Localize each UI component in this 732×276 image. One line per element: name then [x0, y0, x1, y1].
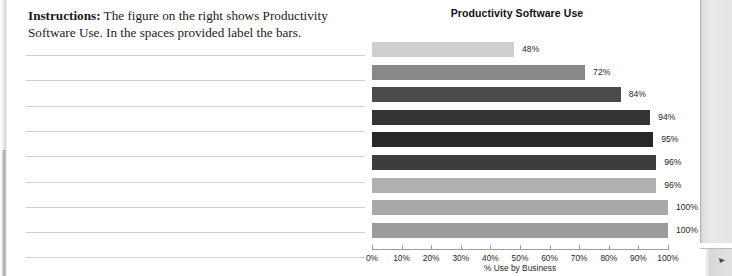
bar — [372, 200, 668, 215]
bar-row: 96% — [372, 155, 668, 170]
scan-edge-left-shadow — [2, 150, 6, 276]
bar-value-label: 72% — [593, 67, 610, 77]
bar-row: 100% — [372, 223, 668, 238]
bar-value-label: 84% — [629, 89, 646, 99]
answer-line[interactable] — [26, 156, 365, 157]
x-axis-tick — [372, 245, 373, 250]
bar-chart: Productivity Software Use 48%72%84%94%95… — [366, 0, 700, 276]
answer-line[interactable] — [26, 55, 365, 56]
bar-row: 100% — [372, 200, 668, 215]
bar — [372, 65, 585, 80]
bar — [372, 178, 656, 193]
x-axis-tick — [550, 245, 551, 250]
bar-value-label: 100% — [676, 225, 698, 235]
x-axis-tick-label: 0% — [366, 253, 378, 263]
x-axis-tick-label: 30% — [452, 253, 469, 263]
bar-value-label: 48% — [522, 44, 539, 54]
bar-value-label: 100% — [676, 202, 698, 212]
x-axis-tick — [638, 245, 639, 250]
answer-lines-group — [26, 55, 365, 260]
bar — [372, 155, 656, 170]
bar — [372, 110, 650, 125]
bar-row: 48% — [372, 42, 668, 57]
answer-line[interactable] — [26, 182, 365, 183]
bar-row: 95% — [372, 132, 668, 147]
scan-edge-right-line — [700, 0, 701, 243]
chart-title: Productivity Software Use — [366, 7, 668, 19]
bar — [372, 42, 514, 57]
answer-line[interactable] — [26, 106, 365, 107]
bar-value-label: 96% — [664, 157, 681, 167]
scan-corner-artifact — [700, 248, 732, 276]
instructions-text: Instructions: The figure on the right sh… — [28, 7, 346, 41]
bar-row: 96% — [372, 178, 668, 193]
bar-row: 94% — [372, 110, 668, 125]
bar — [372, 223, 668, 238]
x-axis-tick — [431, 245, 432, 250]
x-axis-tick — [579, 245, 580, 250]
x-axis-tick-label: 80% — [600, 253, 617, 263]
x-axis-tick — [609, 245, 610, 250]
scan-edge-right — [700, 0, 732, 243]
x-axis-tick — [402, 245, 403, 250]
answer-line[interactable] — [26, 207, 365, 208]
bar-row: 72% — [372, 65, 668, 80]
x-axis-tick — [461, 245, 462, 250]
x-axis-tick-label: 40% — [482, 253, 499, 263]
bar-value-label: 95% — [661, 134, 678, 144]
x-axis-tick — [668, 245, 669, 250]
bar-row: 84% — [372, 87, 668, 102]
bar-value-label: 94% — [658, 112, 675, 122]
answer-line[interactable] — [26, 131, 365, 132]
x-axis-tick-label: 70% — [571, 253, 588, 263]
x-axis-tick — [490, 245, 491, 250]
bar-value-label: 96% — [664, 180, 681, 190]
x-axis-tick-label: 50% — [512, 253, 529, 263]
plot-area: 48%72%84%94%95%96%96%100%100% — [372, 42, 668, 248]
answer-line[interactable] — [26, 80, 365, 81]
answer-line[interactable] — [26, 257, 365, 258]
bar — [372, 87, 621, 102]
x-axis-title: % Use by Business — [372, 263, 668, 273]
x-axis-tick — [520, 245, 521, 250]
answer-line[interactable] — [26, 232, 365, 233]
x-axis-tick-label: 60% — [541, 253, 558, 263]
x-axis-tick-label: 10% — [393, 253, 410, 263]
worksheet-page: Instructions: The figure on the right sh… — [0, 0, 732, 276]
instructions-label: Instructions: — [28, 8, 101, 23]
x-axis-tick-label: 100% — [657, 253, 678, 263]
x-axis-tick-label: 90% — [630, 253, 647, 263]
bar — [372, 132, 653, 147]
x-axis-tick-label: 20% — [423, 253, 440, 263]
